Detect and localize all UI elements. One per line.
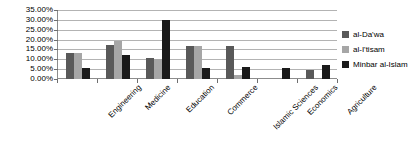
bar [226,46,234,80]
y-axis-tick-label: 10.00% [26,55,53,63]
bar-groups [58,10,337,79]
y-axis-tick-label: 35.00% [26,6,53,14]
y-axis-tick-label: 30.00% [26,16,53,24]
bar [146,58,154,79]
bar [322,65,330,79]
chart-legend: al-Da'waal-I'tisamMinbar al-Islam [342,27,411,72]
legend-label: al-I'tisam [353,45,385,54]
bar [82,68,90,79]
bar [66,53,74,79]
x-axis-category-label: Engineering [106,83,143,120]
legend-swatch-icon [342,46,349,53]
bar-group [258,10,298,79]
bar [282,68,290,79]
x-axis-category-label: Education [184,83,216,115]
bar [106,45,114,80]
bar [186,46,194,79]
y-axis-tick-label: 25.00% [26,26,53,34]
legend-item[interactable]: al-I'tisam [342,42,411,57]
bar-chart: 35.00%30.00%25.00%20.00%15.00%10.00%5.00… [0,0,411,158]
bar [114,41,122,79]
legend-label: Minbar al-Islam [353,60,408,69]
legend-swatch-icon [342,61,349,68]
bar [202,68,210,79]
x-axis-category-label: Commerce [225,83,259,117]
y-axis-tick-label: 5.00% [30,65,53,73]
bar [306,70,314,79]
bar [122,55,130,79]
legend-item[interactable]: al-Da'wa [342,27,411,42]
bar-group [98,10,138,79]
legend-item[interactable]: Minbar al-Islam [342,57,411,72]
bar-group [218,10,258,79]
bar [242,67,250,79]
x-axis-category-label: Agriculture [345,83,378,116]
bar-group [138,10,178,79]
bar [194,46,202,79]
bar [74,53,82,79]
bar-group [298,10,338,79]
bar [154,59,162,79]
legend-swatch-icon [342,31,349,38]
y-axis-tick-label: 20.00% [26,36,53,44]
bar-group [178,10,218,79]
x-axis-category-labels: EngineeringMedicineEducationCommerceIsla… [0,79,411,158]
legend-label: al-Da'wa [353,30,384,39]
bar [162,20,170,79]
y-axis-tick-label: 15.00% [26,45,53,53]
x-axis-category-label: Medicine [143,83,172,112]
bar-group [58,10,98,79]
